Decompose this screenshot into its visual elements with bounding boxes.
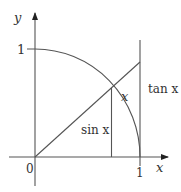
tan-label: tan x — [148, 82, 179, 96]
diagram-canvas: y 1 0 1 x x sin x tan x — [0, 0, 181, 192]
x-axis-label: x — [156, 160, 164, 175]
sin-label: sin x — [81, 123, 110, 137]
unit-circle-diagram: y 1 0 1 x x sin x tan x — [0, 0, 181, 192]
x-tick-label: 1 — [136, 166, 144, 180]
angle-label: x — [121, 89, 129, 104]
origin-label: 0 — [26, 162, 34, 176]
y-tick-label: 1 — [17, 42, 25, 57]
radius-ray — [35, 62, 140, 157]
y-axis-label: y — [13, 10, 22, 25]
